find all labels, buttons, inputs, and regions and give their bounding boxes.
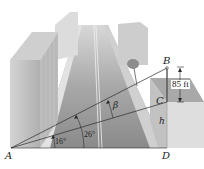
angle-26-label: 26° [84, 131, 95, 139]
distance-85ft-label: 85 ft [171, 80, 190, 89]
height-h-label: h [159, 117, 165, 126]
angle-beta-label: β [113, 101, 118, 110]
angle-of-elevation-diagram: A B C D h 85 ft β 26° 16° [0, 0, 204, 169]
point-C-label: C [156, 96, 164, 106]
tree [127, 59, 139, 69]
point-A-label: A [5, 151, 12, 161]
point-D-label: D [162, 151, 170, 161]
far-right-building [118, 22, 148, 65]
angle-16-label: 16° [55, 138, 66, 146]
point-B-label: B [163, 56, 170, 66]
right-building-front [167, 102, 204, 148]
left-building-front [10, 60, 40, 148]
